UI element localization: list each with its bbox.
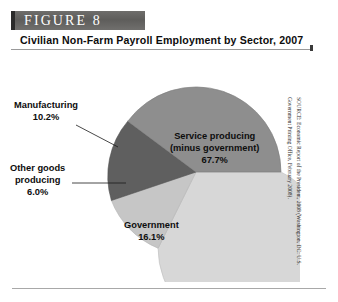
- page-bottom-divider: [12, 288, 326, 289]
- pie-label-manufacturing: Manufacturing 10.2%: [14, 100, 78, 124]
- pie-label-manufacturing-value: 10.2%: [14, 112, 78, 124]
- pie-label-manufacturing-name: Manufacturing: [14, 100, 78, 112]
- pie-label-other-goods-producing: Other goods producing 6.0%: [10, 163, 65, 199]
- pie-label-other-goods-name-line2: producing: [10, 175, 65, 187]
- pie-label-government-value: 16.1%: [124, 232, 179, 244]
- pie-label-service-name-line2: (minus government): [170, 143, 259, 155]
- figure-number-label: FIGURE 8: [15, 13, 102, 29]
- source-note: SOURCE: Economic Report of the President…: [286, 97, 303, 269]
- pie-label-other-goods-name-line1: Other goods: [10, 163, 65, 175]
- pie-chart: Manufacturing 10.2% Other goods producin…: [0, 52, 300, 282]
- figure-subtitle-block: Civilian Non-Farm Payroll Employment by …: [11, 34, 323, 50]
- leader-line-manufacturing: [76, 125, 118, 147]
- subtitle-divider: [11, 49, 313, 50]
- figure-banner: FIGURE 8: [11, 11, 145, 30]
- pie-label-service-producing: Service producing (minus government) 67.…: [170, 131, 259, 167]
- pie-label-other-goods-value: 6.0%: [10, 187, 65, 199]
- pie-label-service-name-line1: Service producing: [170, 131, 259, 143]
- pie-label-government: Government 16.1%: [124, 220, 179, 244]
- subtitle-divider-end-tick: [310, 45, 313, 51]
- pie-label-service-value: 67.7%: [170, 155, 259, 167]
- pie-label-government-name: Government: [124, 220, 179, 232]
- figure-title: Civilian Non-Farm Payroll Employment by …: [11, 34, 323, 46]
